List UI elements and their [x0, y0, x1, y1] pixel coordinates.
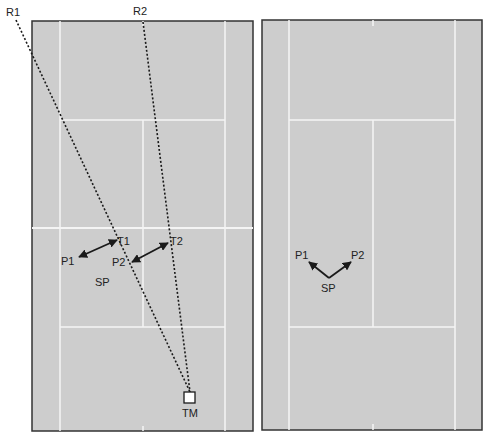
label-sp: SP: [321, 282, 336, 294]
label-p2: P2: [112, 256, 125, 268]
label-t2: T2: [170, 235, 183, 247]
label-tm: TM: [182, 407, 198, 419]
right-court: P1 P2 SP: [262, 20, 482, 430]
label-p2: P2: [351, 249, 364, 261]
label-p1: P1: [295, 249, 308, 261]
diagram: R1 R2 T1 T2 P1 P2 SP TM P1 P2 SP: [0, 0, 491, 442]
label-p1: P1: [61, 255, 74, 267]
tm-marker-square: [184, 392, 195, 403]
label-t1: T1: [117, 235, 130, 247]
label-r2: R2: [133, 5, 147, 17]
label-sp: SP: [95, 276, 110, 288]
label-r1: R1: [6, 6, 20, 18]
left-court: R1 R2 T1 T2 P1 P2 SP TM: [6, 5, 253, 431]
court-surface: [262, 20, 482, 430]
